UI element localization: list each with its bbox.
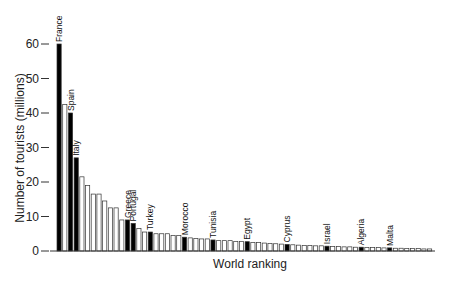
bar [80, 177, 84, 251]
bar [165, 234, 169, 251]
bar-label-israel: Israel [322, 223, 332, 244]
bar-highlighted [148, 232, 152, 251]
bar [91, 194, 95, 251]
bar-highlighted [359, 247, 363, 251]
bar-highlighted [131, 223, 135, 251]
x-axis-title: World ranking [213, 257, 287, 271]
bar-label-italy: Italy [71, 140, 81, 156]
bar-highlighted [182, 237, 186, 251]
bar [365, 248, 369, 251]
bar [251, 242, 255, 251]
bar-label-cyprus: Cyprus [282, 216, 292, 243]
bar [331, 247, 335, 251]
bar [296, 245, 300, 251]
bar [177, 235, 181, 251]
bar [160, 234, 164, 251]
bar-label-algeria: Algeria [356, 218, 366, 245]
bar-label-tunisia: Tunisia [208, 211, 218, 238]
bar-highlighted [68, 113, 72, 251]
bar [205, 239, 209, 251]
y-axis: 0102030405060 [26, 37, 49, 258]
bar-label-france: France [54, 15, 64, 42]
y-axis-title: Number of tourists (millions) [13, 73, 27, 222]
bar [228, 241, 232, 251]
bar-highlighted [325, 246, 329, 251]
bar [371, 248, 375, 251]
bar-label-malta: Malta [385, 225, 395, 246]
bar [137, 229, 141, 251]
bar [103, 201, 107, 251]
bar [108, 208, 112, 251]
bar [336, 247, 340, 251]
bar [143, 232, 147, 251]
bar-label-morocco: Morocco [180, 202, 190, 235]
bar [97, 194, 101, 251]
y-tick-label: 20 [26, 175, 40, 189]
bar [154, 234, 158, 251]
y-tick-label: 60 [26, 37, 40, 51]
bar-highlighted [125, 220, 129, 251]
bar [194, 239, 198, 251]
y-tick-label: 10 [26, 210, 40, 224]
bar [86, 185, 90, 251]
y-tick-label: 0 [32, 244, 39, 258]
bar [279, 244, 283, 251]
bar [274, 244, 278, 251]
tourism-bar-chart: 0102030405060 FranceSpainItalyGreecePort… [0, 0, 451, 287]
bar [302, 245, 306, 251]
bar [342, 247, 346, 251]
bar [234, 241, 238, 251]
bar-highlighted [245, 242, 249, 251]
bar [308, 245, 312, 251]
bar [376, 248, 380, 251]
y-tick-label: 30 [26, 141, 40, 155]
bar [239, 241, 243, 251]
bar [268, 243, 272, 251]
bar-highlighted [285, 244, 289, 251]
bar-highlighted [57, 44, 61, 251]
bar [348, 247, 352, 251]
y-tick-label: 40 [26, 106, 40, 120]
bar-label-portugal: Portugal [128, 190, 138, 222]
bar [262, 243, 266, 251]
bar [222, 241, 226, 251]
bar-label-turkey: Turkey [145, 204, 155, 230]
bar [257, 242, 261, 251]
bar [63, 104, 67, 251]
bar [188, 238, 192, 251]
bar [200, 239, 204, 251]
bar [217, 241, 221, 251]
bar-highlighted [211, 240, 215, 251]
bar [319, 246, 323, 251]
bar [120, 220, 124, 251]
bar-highlighted [74, 158, 78, 251]
bar [353, 247, 357, 251]
bar-label-spain: Spain [66, 89, 76, 111]
bar-label-egypt: Egypt [242, 217, 252, 239]
bar [171, 235, 175, 251]
bar [314, 246, 318, 251]
y-tick-label: 50 [26, 72, 40, 86]
bar [114, 208, 118, 251]
bar [291, 245, 295, 251]
